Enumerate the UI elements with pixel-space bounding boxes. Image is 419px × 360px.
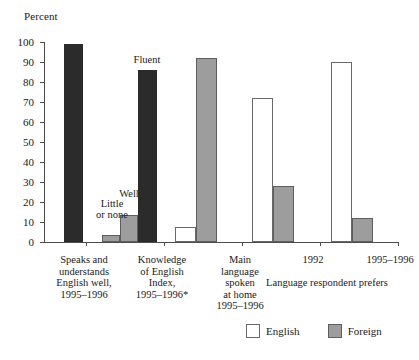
y-tick-label-80: 80: [23, 77, 34, 88]
group-caption-language-respondent-prefers: Language respondent prefers: [252, 277, 402, 289]
legend: English Foreign: [246, 324, 382, 338]
x-axis-line: [44, 242, 399, 243]
legend-item-foreign: Foreign: [328, 324, 382, 338]
y-tick-label-20: 20: [23, 197, 34, 208]
bar-main-language-foreign: [196, 58, 217, 242]
x-tick-sep-3: [242, 242, 243, 246]
bar-prefers-1995-1996-english: [331, 62, 352, 242]
annotation-little-or-none: Little or none: [84, 198, 140, 220]
bar-main-language-english: [175, 227, 196, 242]
category-label-speaks-understands: Speaks and understands English well, 199…: [40, 254, 128, 300]
y-tick-40: 40: [40, 162, 44, 163]
bar-prefers-1992-english: [252, 98, 273, 242]
bar-speaks-understands-english-well: [64, 44, 83, 242]
annotation-well: Well: [111, 188, 147, 199]
legend-label-english: English: [266, 326, 300, 337]
category-label-1995-1996: 1995–1996: [346, 254, 419, 266]
category-label-knowledge-line2: of English: [140, 266, 183, 277]
y-tick-20: 20: [40, 202, 44, 203]
y-tick-label-40: 40: [23, 157, 34, 168]
category-label-speaks-line2: understands: [59, 266, 109, 277]
y-tick-label-10: 10: [23, 217, 34, 228]
category-label-main-line3: spoken: [225, 277, 255, 288]
annotation-little-or-none-line2: or none: [96, 209, 128, 220]
annotation-fluent: Fluent: [124, 54, 170, 65]
y-tick-label-90: 90: [23, 57, 34, 68]
category-label-main-line5: 1995–1996: [216, 300, 263, 311]
y-tick-label-0: 0: [29, 237, 35, 248]
y-tick-10: 10: [40, 222, 44, 223]
category-label-knowledge-line1: Knowledge: [138, 254, 186, 265]
y-tick-30: 30: [40, 182, 44, 183]
bar-prefers-1995-1996-foreign: [352, 218, 373, 242]
y-tick-label-60: 60: [23, 117, 34, 128]
legend-label-foreign: Foreign: [348, 326, 382, 337]
legend-swatch-foreign-icon: [328, 324, 342, 338]
annotation-little-or-none-line1: Little: [101, 198, 124, 209]
legend-item-english: English: [246, 324, 300, 338]
category-label-main-line4: at home: [223, 289, 257, 300]
y-tick-100: 100: [40, 42, 44, 43]
x-tick-sep-2: [164, 242, 165, 246]
y-tick-60: 60: [40, 122, 44, 123]
legend-swatch-english-icon: [246, 324, 260, 338]
y-tick-label-30: 30: [23, 177, 34, 188]
x-tick-sep-4: [320, 242, 321, 246]
category-label-speaks-line1: Speaks and: [60, 254, 108, 265]
category-label-knowledge-index: Knowledge of English Index, 1995–1996*: [118, 254, 206, 300]
y-tick-label-50: 50: [23, 137, 34, 148]
y-tick-label-100: 100: [18, 37, 35, 48]
y-axis-line: [44, 42, 45, 243]
y-tick-label-70: 70: [23, 97, 34, 108]
y-tick-70: 70: [40, 102, 44, 103]
category-label-main-line2: language: [221, 266, 259, 277]
plot-area: 100 90 80 70 60 50 40 30 20 10 0: [44, 42, 399, 242]
x-tick-sep-5: [398, 242, 399, 246]
bar-prefers-1992-foreign: [273, 186, 294, 242]
category-label-main-line1: Main: [229, 254, 251, 265]
y-tick-50: 50: [40, 142, 44, 143]
category-label-knowledge-line4: 1995–1996*: [136, 289, 189, 300]
category-label-knowledge-line3: Index,: [149, 277, 176, 288]
category-label-speaks-line3: English well,: [56, 277, 111, 288]
y-tick-0: 0: [40, 242, 44, 243]
y-tick-90: 90: [40, 62, 44, 63]
y-tick-80: 80: [40, 82, 44, 83]
x-tick-sep-1: [86, 242, 87, 246]
category-label-speaks-line4: 1995–1996: [60, 289, 107, 300]
bar-knowledge-little-or-none: [102, 235, 120, 242]
y-axis-title: Percent: [24, 10, 58, 22]
bar-knowledge-fluent: [138, 70, 157, 242]
category-label-1992: 1992: [274, 254, 352, 266]
